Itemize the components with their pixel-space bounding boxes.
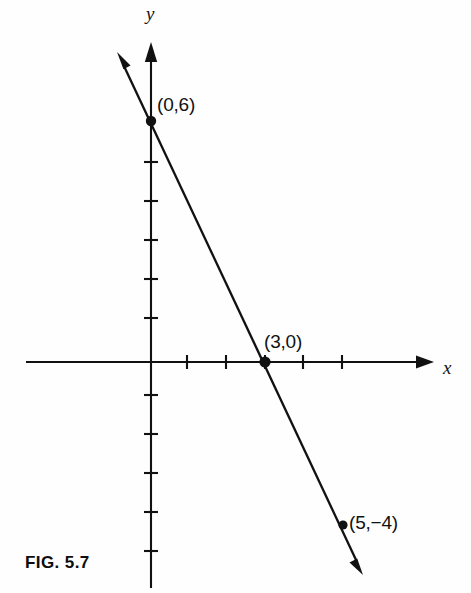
y-axis-label: y: [146, 4, 154, 23]
figure-container: y x (0,6) (3,0) (5,−4) FIG. 5.7: [0, 0, 471, 593]
line-lower-arrowhead-icon: [350, 559, 364, 575]
x-axis-label: x: [443, 358, 451, 377]
line-upper-arrowhead-icon: [117, 52, 131, 69]
data-point-0-6: [146, 116, 156, 126]
data-point-5-neg4: [338, 520, 347, 529]
line-segment: [123, 64, 357, 562]
point-label-3-0: (3,0): [264, 332, 302, 351]
figure-caption: FIG. 5.7: [25, 553, 90, 573]
x-axis: [26, 355, 434, 369]
data-point-3-0: [259, 356, 270, 367]
y-axis-arrowhead-icon: [145, 42, 157, 62]
point-label-0-6: (0,6): [157, 95, 195, 114]
plotted-line-series: [117, 52, 363, 575]
coordinate-plane-graph: [0, 0, 471, 593]
point-label-5-neg4: (5,−4): [349, 513, 398, 532]
x-axis-arrowhead-icon: [416, 356, 434, 369]
